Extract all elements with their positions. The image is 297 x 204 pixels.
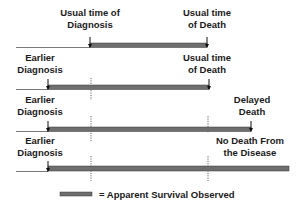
legend-text: = Apparent Survival Observed [99, 189, 235, 200]
row-usual: Usual time of Diagnosis Usual time of De… [16, 7, 231, 48]
diagnosis-label-line2: Diagnosis [17, 106, 62, 117]
diagnosis-label-line1: Earlier [25, 135, 55, 146]
survival-bar [48, 85, 209, 90]
survival-bar [90, 43, 207, 48]
row-earlier: Earlier Diagnosis Usual time of Death [16, 52, 231, 100]
end-label-line1: Usual time [183, 7, 231, 18]
diagnosis-label-line2: Diagnosis [17, 64, 62, 75]
end-label-line2: of Death [188, 19, 226, 30]
diagnosis-label-line1: Earlier [25, 52, 55, 63]
end-label-line1: No Death From [216, 135, 284, 146]
diagnosis-label-line1: Earlier [25, 94, 55, 105]
survival-bias-diagram: Usual time of Diagnosis Usual time of De… [0, 0, 297, 204]
end-label-line1: Delayed [234, 94, 271, 105]
legend-swatch [60, 192, 92, 196]
survival-bar [48, 166, 289, 171]
survival-bar [48, 127, 251, 132]
legend: = Apparent Survival Observed [60, 189, 235, 200]
end-label-line2: of Death [188, 64, 226, 75]
end-label-line1: Usual time [183, 52, 231, 63]
diagnosis-label-line1: Usual time of [60, 7, 120, 18]
diagnosis-label-line2: Diagnosis [17, 147, 62, 158]
row-no-death: Earlier Diagnosis No Death From the Dise… [16, 135, 289, 181]
diagnosis-label-line2: Diagnosis [67, 19, 112, 30]
end-label-line2: Death [239, 106, 266, 117]
end-label-line2: the Disease [224, 147, 277, 158]
